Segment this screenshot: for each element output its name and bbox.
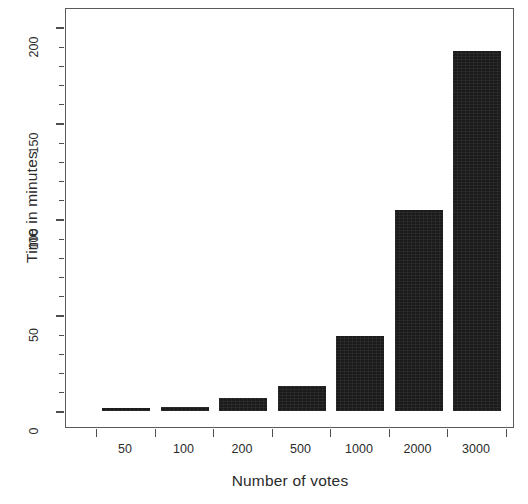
y-axis-tick bbox=[56, 411, 64, 412]
y-axis-tick bbox=[56, 315, 64, 316]
y-axis-minor-tick bbox=[59, 392, 64, 393]
bar bbox=[395, 210, 443, 411]
y-axis-minor-tick bbox=[59, 66, 64, 67]
x-axis-tick bbox=[155, 429, 156, 437]
bar bbox=[453, 51, 501, 411]
y-axis-minor-tick bbox=[59, 162, 64, 163]
y-axis-minor-tick bbox=[59, 258, 64, 259]
x-axis-tick-label: 100 bbox=[154, 442, 214, 456]
x-axis-tick bbox=[506, 429, 507, 437]
y-axis-minor-tick bbox=[59, 27, 64, 28]
bar bbox=[102, 408, 150, 411]
bar bbox=[161, 407, 209, 411]
x-axis-tick bbox=[213, 429, 214, 437]
y-axis-tick-label: 150 bbox=[27, 123, 41, 163]
x-axis-tick-label: 1000 bbox=[329, 442, 389, 456]
y-axis-tick-label: 100 bbox=[27, 219, 41, 259]
y-axis-minor-tick bbox=[59, 335, 64, 336]
bar bbox=[219, 398, 267, 411]
x-axis-tick bbox=[96, 429, 97, 437]
plot-area bbox=[65, 8, 514, 428]
y-axis-tick-label: 0 bbox=[27, 411, 41, 451]
y-axis-tick-label: 200 bbox=[27, 27, 41, 67]
bar bbox=[278, 386, 326, 411]
bar-chart-figure: Time in minutes Number of votes 05010015… bbox=[0, 0, 528, 504]
x-axis-tick bbox=[447, 429, 448, 437]
y-axis-minor-tick bbox=[59, 143, 64, 144]
x-axis-tick-label: 200 bbox=[212, 442, 272, 456]
x-axis-tick-label: 50 bbox=[95, 442, 155, 456]
x-axis-tick-label: 500 bbox=[271, 442, 331, 456]
y-axis-minor-tick bbox=[59, 200, 64, 201]
y-axis-minor-tick bbox=[59, 354, 64, 355]
y-axis-minor-tick bbox=[59, 277, 64, 278]
y-axis-minor-tick bbox=[59, 85, 64, 86]
x-axis-tick bbox=[389, 429, 390, 437]
y-axis-minor-tick bbox=[59, 239, 64, 240]
x-axis-tick bbox=[272, 429, 273, 437]
x-axis-tick-label: 2000 bbox=[388, 442, 448, 456]
y-axis-minor-tick bbox=[59, 373, 64, 374]
x-axis-tick-label: 3000 bbox=[446, 442, 506, 456]
y-axis-minor-tick bbox=[59, 181, 64, 182]
y-axis-tick-label: 50 bbox=[27, 315, 41, 355]
y-axis-minor-tick bbox=[59, 296, 64, 297]
y-axis-minor-tick bbox=[59, 104, 64, 105]
x-axis-title: Number of votes bbox=[65, 472, 515, 490]
y-axis-tick bbox=[56, 123, 64, 124]
y-axis-tick bbox=[56, 219, 64, 220]
y-axis-minor-tick bbox=[59, 47, 64, 48]
x-axis-tick bbox=[330, 429, 331, 437]
bar bbox=[336, 336, 384, 411]
